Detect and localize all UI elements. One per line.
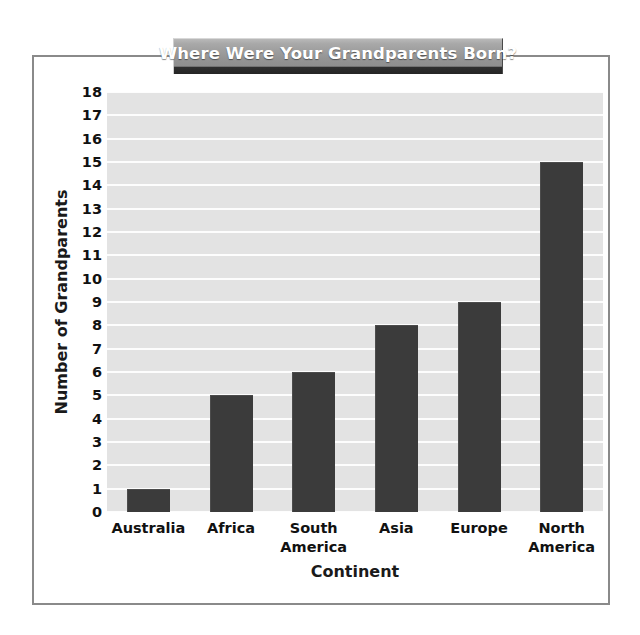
x-tick-label: Europe <box>438 516 521 564</box>
y-tick-label: 16 <box>62 131 102 146</box>
bar-slot <box>520 92 603 512</box>
x-tick-label: Africa <box>190 516 273 564</box>
bar[interactable] <box>210 395 253 512</box>
y-tick-label: 18 <box>62 85 102 100</box>
bar[interactable] <box>127 489 170 512</box>
y-tick-label: 2 <box>62 458 102 473</box>
bar-slot <box>438 92 521 512</box>
y-tick-label: 10 <box>62 271 102 286</box>
y-tick-label: 4 <box>62 411 102 426</box>
bar-series <box>107 92 603 512</box>
y-tick-label: 7 <box>62 341 102 356</box>
chart-title: Where Were Your Grandparents Born? <box>159 39 517 68</box>
bar-slot <box>190 92 273 512</box>
y-tick-label: 3 <box>62 435 102 450</box>
y-axis-tick-labels: 0123456789101112131415161718 <box>62 92 102 512</box>
bar[interactable] <box>292 372 335 512</box>
y-tick-label: 0 <box>62 505 102 520</box>
y-tick-label: 6 <box>62 365 102 380</box>
y-tick-label: 14 <box>62 178 102 193</box>
x-tick-label: SouthAmerica <box>272 516 355 564</box>
bar[interactable] <box>458 302 501 512</box>
bar[interactable] <box>375 325 418 512</box>
y-tick-label: 11 <box>62 248 102 263</box>
y-tick-label: 8 <box>62 318 102 333</box>
bar-slot <box>355 92 438 512</box>
plot-area <box>107 92 603 512</box>
y-tick-label: 13 <box>62 201 102 216</box>
x-axis-tick-labels: AustraliaAfricaSouthAmericaAsiaEuropeNor… <box>107 516 603 564</box>
x-tick-label: NorthAmerica <box>520 516 603 564</box>
y-tick-label: 5 <box>62 388 102 403</box>
bar-slot <box>107 92 190 512</box>
x-tick-label: Australia <box>107 516 190 564</box>
y-tick-label: 15 <box>62 155 102 170</box>
bar-slot <box>272 92 355 512</box>
chart-title-banner: Where Were Your Grandparents Born? <box>173 38 503 74</box>
y-tick-label: 17 <box>62 108 102 123</box>
x-axis-label: Continent <box>107 562 603 581</box>
y-tick-label: 1 <box>62 481 102 496</box>
x-tick-label: Asia <box>355 516 438 564</box>
bar[interactable] <box>540 162 583 512</box>
y-tick-label: 12 <box>62 225 102 240</box>
y-tick-label: 9 <box>62 295 102 310</box>
